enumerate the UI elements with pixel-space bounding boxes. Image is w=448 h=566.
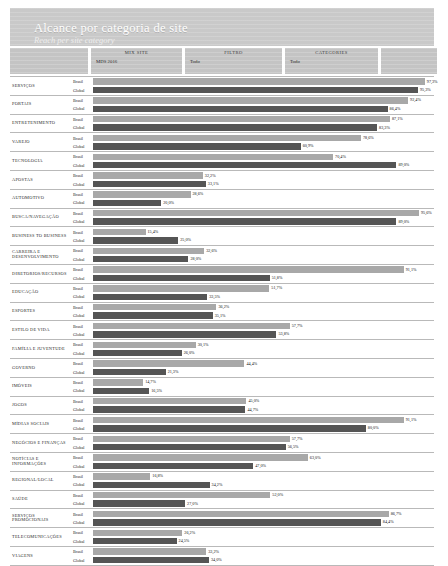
bar-track-global: 60,9% <box>93 143 434 150</box>
bar-global[interactable] <box>93 331 276 337</box>
series-label-global: Global <box>72 482 93 487</box>
bar-line-global: Global51,8% <box>72 274 434 282</box>
bar-global[interactable] <box>93 519 381 525</box>
bar-brasil[interactable] <box>93 304 216 310</box>
bar-value-label-brasil: 52,0% <box>270 492 283 497</box>
bar-global[interactable] <box>93 237 178 243</box>
series-label-global: Global <box>72 144 93 149</box>
bar-brasil[interactable] <box>93 191 191 197</box>
bar-global[interactable] <box>93 369 166 375</box>
bar-value-label-global: 89,0% <box>396 162 409 167</box>
bar-brasil[interactable] <box>93 492 270 498</box>
bar-global[interactable] <box>93 181 206 187</box>
bar-global[interactable] <box>93 500 185 506</box>
bar-value-label-brasil: 92,4% <box>408 97 421 102</box>
chart-row-bars: Brasil95,6%Global89,0% <box>72 209 434 227</box>
series-label-brasil: Brasil <box>72 512 93 517</box>
bar-brasil[interactable] <box>93 97 408 103</box>
bar-line-global: Global89,0% <box>72 217 434 225</box>
bar-track-brasil: 78,6% <box>93 134 434 141</box>
bar-track-global: 80,0% <box>93 425 434 432</box>
bar-line-brasil: Brasil52,0% <box>72 491 434 499</box>
bar-track-brasil: 97,3% <box>93 78 434 85</box>
bar-global[interactable] <box>93 162 396 168</box>
bar-value-label-global: 27,0% <box>185 501 198 506</box>
bar-track-global: 56,5% <box>93 444 434 451</box>
series-label-global: Global <box>72 351 93 356</box>
bar-global[interactable] <box>93 444 286 450</box>
filter-categories[interactable]: CATEGORIES Todo <box>285 48 378 74</box>
bar-line-global: Global26,0% <box>72 349 434 357</box>
bar-brasil[interactable] <box>93 436 290 442</box>
bar-brasil[interactable] <box>93 548 206 554</box>
bar-value-label-brasil: 63,0% <box>308 455 321 460</box>
bar-brasil[interactable] <box>93 154 333 160</box>
bar-brasil[interactable] <box>93 379 143 385</box>
bar-brasil[interactable] <box>93 116 390 122</box>
bar-value-label-brasil: 16,8% <box>150 473 163 478</box>
bar-global[interactable] <box>93 350 182 356</box>
filter-cell-blank-left[interactable] <box>10 48 88 74</box>
series-label-global: Global <box>72 257 93 262</box>
filter-cell-blank-right[interactable] <box>381 48 437 74</box>
bar-brasil[interactable] <box>93 248 204 254</box>
bar-value-label-brasil: 91,1% <box>404 267 417 272</box>
bar-line-global: Global27,0% <box>72 499 434 507</box>
chart-row-category-label: SERVIÇOS <box>10 77 72 95</box>
bar-brasil[interactable] <box>93 323 290 329</box>
bar-global[interactable] <box>93 200 161 206</box>
bar-line-brasil: Brasil92,4% <box>72 96 434 104</box>
chart-row: GOVERNOBrasil44,4%Global21,3% <box>10 359 434 378</box>
bar-brasil[interactable] <box>93 511 389 517</box>
bar-brasil[interactable] <box>93 417 404 423</box>
bar-global[interactable] <box>93 538 177 544</box>
bar-brasil[interactable] <box>93 78 425 84</box>
bar-brasil[interactable] <box>93 530 182 536</box>
bar-brasil[interactable] <box>93 210 419 216</box>
bar-value-label-brasil: 51,7% <box>269 285 282 290</box>
bar-global[interactable] <box>93 482 210 488</box>
bar-track-global: 27,0% <box>93 500 434 507</box>
bar-global[interactable] <box>93 87 418 93</box>
bar-global[interactable] <box>93 294 207 300</box>
bar-global[interactable] <box>93 406 245 412</box>
bar-global[interactable] <box>93 106 388 112</box>
bar-global[interactable] <box>93 275 270 281</box>
bar-global[interactable] <box>93 143 301 149</box>
chart-row-category-label: DIRETORIOS/RECURSOS <box>10 265 72 283</box>
bar-brasil[interactable] <box>93 135 361 141</box>
bar-brasil[interactable] <box>93 229 146 235</box>
bar-brasil[interactable] <box>93 360 244 366</box>
bar-global[interactable] <box>93 557 209 563</box>
filter-filtro[interactable]: FILTRO Todo <box>185 48 282 74</box>
chart-row: SAÚDEBrasil52,0%Global27,0% <box>10 491 434 510</box>
bar-line-global: Global44,7% <box>72 405 434 413</box>
bar-track-brasil: 92,4% <box>93 97 434 104</box>
chart-row: NOTÍCIAS E INFORMAÇÕESBrasil63,0%Global4… <box>10 453 434 472</box>
bar-track-brasil: 26,2% <box>93 529 434 536</box>
bar-brasil[interactable] <box>93 172 203 178</box>
bar-global[interactable] <box>93 463 253 469</box>
bar-brasil[interactable] <box>93 285 269 291</box>
bar-brasil[interactable] <box>93 473 150 479</box>
series-label-global: Global <box>72 125 93 130</box>
bar-global[interactable] <box>93 425 366 431</box>
bar-global[interactable] <box>93 256 188 262</box>
bar-brasil[interactable] <box>93 398 246 404</box>
bar-line-brasil: Brasil97,3% <box>72 78 434 86</box>
bar-brasil[interactable] <box>93 342 196 348</box>
bar-global[interactable] <box>93 388 149 394</box>
bar-global[interactable] <box>93 218 396 224</box>
bar-global[interactable] <box>93 124 377 130</box>
filter-mix-site[interactable]: MIX Site MDS 2016 <box>91 48 182 74</box>
bar-track-global: 35,1% <box>93 312 434 319</box>
bar-brasil[interactable] <box>93 266 404 272</box>
bar-value-label-brasil: 15,4% <box>146 229 159 234</box>
page-subtitle: Reach per site category <box>34 35 114 45</box>
bar-line-global: Global35,1% <box>72 311 434 319</box>
bar-global[interactable] <box>93 312 213 318</box>
chart-row: DIRETORIOS/RECURSOSBrasil91,1%Global51,8… <box>10 265 434 284</box>
bar-track-global: 89,0% <box>93 162 434 169</box>
bar-brasil[interactable] <box>93 454 308 460</box>
series-label-brasil: Brasil <box>72 380 93 385</box>
